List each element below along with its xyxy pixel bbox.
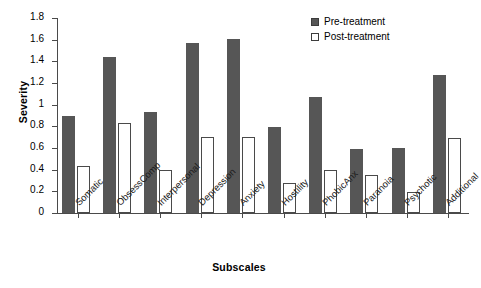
x-axis-tick [366,213,367,218]
y-axis-tick-label: 1.8 [14,11,44,22]
y-axis-tick-label: 1 [14,98,44,109]
y-axis-tick-label: 0.6 [14,141,44,152]
y-axis-tick-label: 0.4 [14,163,44,174]
bar-pre-treatment [227,39,240,213]
y-axis-tick-label: 0.2 [14,184,44,195]
x-axis-tick [78,213,79,218]
bar-pre-treatment [433,75,446,213]
x-axis-tick [242,213,243,218]
chart-legend: Pre-treatmentPost-treatment [311,14,390,44]
x-axis-tick [160,213,161,218]
x-axis-tick [325,213,326,218]
legend-label: Pre-treatment [324,16,385,27]
y-axis-tick-label: 1.6 [14,33,44,44]
y-axis-tick-label: 0 [14,206,44,217]
y-axis-tick-label: 0.8 [14,119,44,130]
y-axis-tick-label: 1.2 [14,76,44,87]
x-axis-tick [448,213,449,218]
x-axis-title: Subscales [0,261,478,273]
y-axis-tick-label: 1.4 [14,54,44,65]
legend-label: Post-treatment [324,31,390,42]
legend-item: Pre-treatment [311,14,390,29]
y-axis-tick: 0 [52,213,57,214]
legend-swatch-icon [311,33,319,41]
x-axis-tick [407,213,408,218]
bar-pre-treatment [103,57,116,213]
bar-pre-treatment [309,97,322,213]
legend-swatch-icon [311,18,319,26]
x-axis-tick [201,213,202,218]
x-axis-tick [119,213,120,218]
legend-item: Post-treatment [311,29,390,44]
x-axis-tick [284,213,285,218]
bar-pre-treatment [186,43,199,213]
